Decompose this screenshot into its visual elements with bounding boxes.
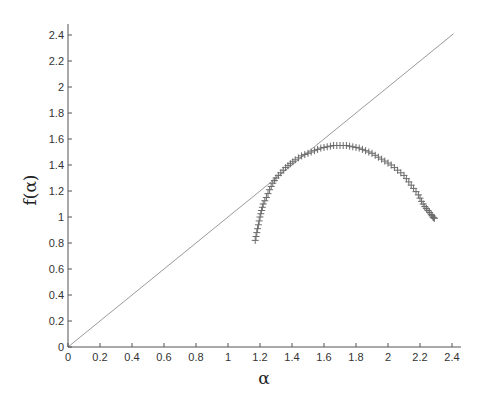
data-point-plus-marker — [256, 217, 263, 224]
data-point-plus-marker — [317, 145, 324, 152]
data-point-plus-marker — [359, 146, 366, 153]
y-tick-label: 2.4 — [49, 29, 64, 41]
data-markers-layer — [252, 142, 438, 244]
x-tick-label: 1.4 — [284, 351, 299, 363]
reference-line-identity — [68, 34, 454, 347]
data-point-plus-marker — [365, 149, 372, 156]
x-tick-label: 0.2 — [92, 351, 107, 363]
x-tick-label: 2.4 — [444, 351, 459, 363]
x-tick-label: 1.2 — [252, 351, 267, 363]
data-point-plus-marker — [362, 147, 369, 154]
data-point-plus-marker — [253, 229, 260, 236]
y-tick-label: 0.4 — [49, 289, 64, 301]
data-point-plus-marker — [324, 143, 331, 150]
data-point-plus-marker — [259, 204, 266, 211]
x-tick-label: 1.6 — [316, 351, 331, 363]
data-point-plus-marker — [353, 144, 360, 151]
x-tick-label: 1 — [225, 351, 231, 363]
data-point-plus-marker — [266, 186, 273, 193]
y-tick-label: 1 — [58, 211, 64, 223]
data-point-plus-marker — [257, 210, 264, 217]
x-tick-label: 0.8 — [188, 351, 203, 363]
x-axis-label: α — [258, 368, 270, 388]
data-point-plus-marker — [260, 201, 267, 208]
x-tick-label: 0.6 — [156, 351, 171, 363]
x-tick-label: 0 — [65, 351, 71, 363]
data-point-plus-marker — [252, 237, 259, 244]
data-point-plus-marker — [321, 144, 328, 151]
y-ticks: 00.20.40.60.811.21.41.61.822.22.4 — [49, 29, 72, 353]
data-point-plus-marker — [417, 195, 424, 202]
y-tick-label: 2.2 — [49, 55, 64, 67]
reference-line-layer — [68, 34, 454, 347]
data-point-plus-marker — [346, 143, 353, 150]
data-point-plus-marker — [349, 143, 356, 150]
x-tick-label: 1.8 — [348, 351, 363, 363]
data-point-plus-marker — [258, 207, 265, 214]
data-point-plus-marker — [327, 143, 334, 150]
y-tick-label: 1.2 — [49, 185, 64, 197]
x-ticks: 00.20.40.60.811.21.41.61.822.22.4 — [65, 343, 460, 363]
y-tick-label: 0.8 — [49, 237, 64, 249]
data-point-plus-marker — [253, 233, 260, 240]
data-point-plus-marker — [263, 194, 270, 201]
y-tick-label: 1.6 — [49, 133, 64, 145]
data-point-plus-marker — [261, 197, 268, 204]
y-tick-label: 0 — [58, 341, 64, 353]
y-tick-label: 2 — [58, 81, 64, 93]
data-point-plus-marker — [305, 150, 312, 157]
y-axis-label: f(α) — [20, 174, 40, 205]
y-tick-label: 0.2 — [49, 315, 64, 327]
data-point-plus-marker — [254, 225, 261, 232]
data-point-plus-marker — [255, 221, 262, 228]
y-tick-label: 1.4 — [49, 159, 64, 171]
y-tick-label: 0.6 — [49, 263, 64, 275]
multifractal-spectrum-chart: 00.20.40.60.811.21.41.61.822.22.4 00.20.… — [0, 0, 493, 401]
x-tick-label: 0.4 — [124, 351, 139, 363]
x-tick-label: 2.2 — [412, 351, 427, 363]
data-point-plus-marker — [314, 146, 321, 153]
data-point-plus-marker — [343, 142, 350, 149]
data-point-plus-marker — [265, 190, 272, 197]
x-tick-label: 2 — [385, 351, 391, 363]
y-tick-label: 1.8 — [49, 107, 64, 119]
data-point-plus-marker — [308, 149, 315, 156]
data-point-plus-marker — [257, 214, 264, 221]
data-point-plus-marker — [356, 145, 363, 152]
